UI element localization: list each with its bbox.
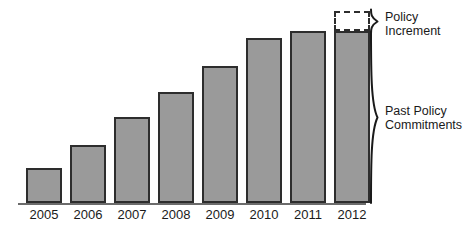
past-policy-commitments-label: Past Policy Commitments [385, 104, 462, 132]
bar-2005 [26, 168, 62, 203]
x-tick-label-2009: 2009 [202, 207, 238, 222]
policy-increment-label-line1: Policy [385, 10, 441, 24]
x-tick-label-2010: 2010 [246, 207, 282, 222]
bar-2006 [70, 145, 106, 203]
x-tick-label-2007: 2007 [114, 207, 150, 222]
policy-increment-label-line2: Increment [385, 24, 441, 38]
x-tick-label-2005: 2005 [26, 207, 62, 222]
bar-2010 [246, 38, 282, 203]
bar-2008 [158, 92, 194, 203]
bar-2012 [334, 31, 370, 203]
bar-2009 [202, 66, 238, 203]
x-tick-label-2008: 2008 [158, 207, 194, 222]
bar-chart: 2005 2006 2007 2008 2009 2010 2011 2012 … [0, 0, 471, 236]
policy-increment-block-2012 [334, 11, 370, 31]
bar-2007 [114, 117, 150, 203]
x-tick-label-2011: 2011 [290, 207, 326, 222]
x-tick-label-2012: 2012 [334, 207, 370, 222]
x-axis-line [18, 203, 366, 205]
policy-increment-label: Policy Increment [385, 10, 441, 38]
past-policy-label-line1: Past Policy [385, 104, 462, 118]
bar-2011 [290, 31, 326, 203]
past-policy-commitments-brace-icon [368, 30, 382, 205]
plot-area: 2005 2006 2007 2008 2009 2010 2011 2012 … [0, 0, 471, 236]
x-tick-label-2006: 2006 [70, 207, 106, 222]
past-policy-label-line2: Commitments [385, 118, 462, 132]
